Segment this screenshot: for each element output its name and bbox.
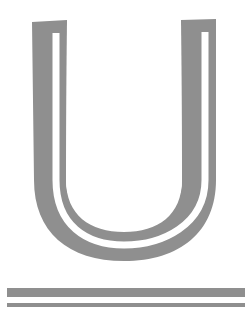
letter-u-graphic (0, 0, 249, 310)
letter-u-counter (66, 20, 182, 230)
thin-rule (7, 303, 245, 307)
thick-rule (7, 288, 245, 297)
